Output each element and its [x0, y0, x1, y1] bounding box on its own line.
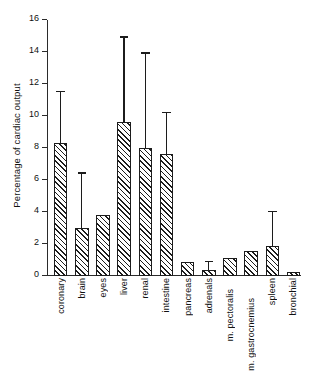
y-tick-label: 12 [29, 77, 39, 87]
x-axis-labels: coronarybraineyesliverrenalintestinepanc… [47, 278, 311, 376]
error-bar-cap [162, 112, 171, 113]
x-axis-label: renal [140, 278, 150, 299]
bar-group [139, 20, 153, 276]
error-bar-stem [272, 212, 273, 246]
bar-group [266, 20, 280, 276]
error-bar-stem [60, 92, 61, 143]
error-bar-stem [166, 113, 167, 155]
y-tick-label: 4 [34, 205, 39, 215]
cardiac-output-bar-chart: Percentage of cardiac output 02468101214… [0, 0, 311, 376]
bar [287, 272, 301, 276]
bar-group [96, 20, 110, 276]
bar-group [117, 20, 131, 276]
bar-group [244, 20, 258, 276]
bars-layer [47, 20, 303, 276]
bar-group [75, 20, 89, 276]
error-bar-stem [208, 262, 209, 269]
x-axis-label: brain [77, 278, 87, 299]
bar [160, 154, 174, 276]
x-axis-label: spleen [267, 278, 277, 305]
x-axis-label: adrenals [204, 278, 214, 313]
y-tick-label: 16 [29, 13, 39, 23]
bar [202, 270, 216, 276]
bar [181, 262, 195, 276]
error-bar-cap [268, 211, 277, 212]
x-axis-label: intestine [161, 278, 171, 312]
bar [223, 258, 237, 276]
bar-group [181, 20, 195, 276]
bar-group [54, 20, 68, 276]
bar [117, 122, 131, 276]
error-bar-stem [123, 38, 124, 123]
bar [54, 143, 68, 276]
plot-area: 0246810121416 [47, 20, 303, 276]
error-bar-stem [145, 54, 146, 148]
bar [139, 148, 153, 276]
error-bar-cap [56, 91, 65, 92]
y-tick-label: 0 [34, 269, 39, 279]
y-tick-label: 10 [29, 109, 39, 119]
error-bar-cap [120, 36, 129, 37]
y-tick-label: 2 [34, 237, 39, 247]
y-tick-label: 14 [29, 45, 39, 55]
bar-group [223, 20, 237, 276]
y-tick-label: 6 [34, 173, 39, 183]
x-axis-label: eyes [98, 278, 108, 297]
bar-group [160, 20, 174, 276]
error-bar-stem [81, 174, 82, 228]
x-axis-label: pancreas [183, 278, 193, 316]
bar [266, 246, 280, 276]
x-axis-label: coronary [56, 278, 66, 314]
bar-group [202, 20, 216, 276]
bar-group [287, 20, 301, 276]
x-axis-label: m. gastrocnemius [246, 298, 256, 371]
x-axis-label: bronchial [288, 278, 298, 315]
error-bar-cap [141, 52, 150, 53]
bar [244, 251, 258, 276]
error-bar-cap [205, 261, 214, 262]
y-tick-label: 8 [34, 141, 39, 151]
x-axis-label: m. pectoralis [225, 289, 235, 341]
bar [75, 228, 89, 276]
y-axis-title: Percentage of cardiac output [11, 46, 22, 246]
bar [96, 215, 110, 276]
x-axis-label: liver [119, 278, 129, 295]
error-bar-cap [78, 172, 87, 173]
